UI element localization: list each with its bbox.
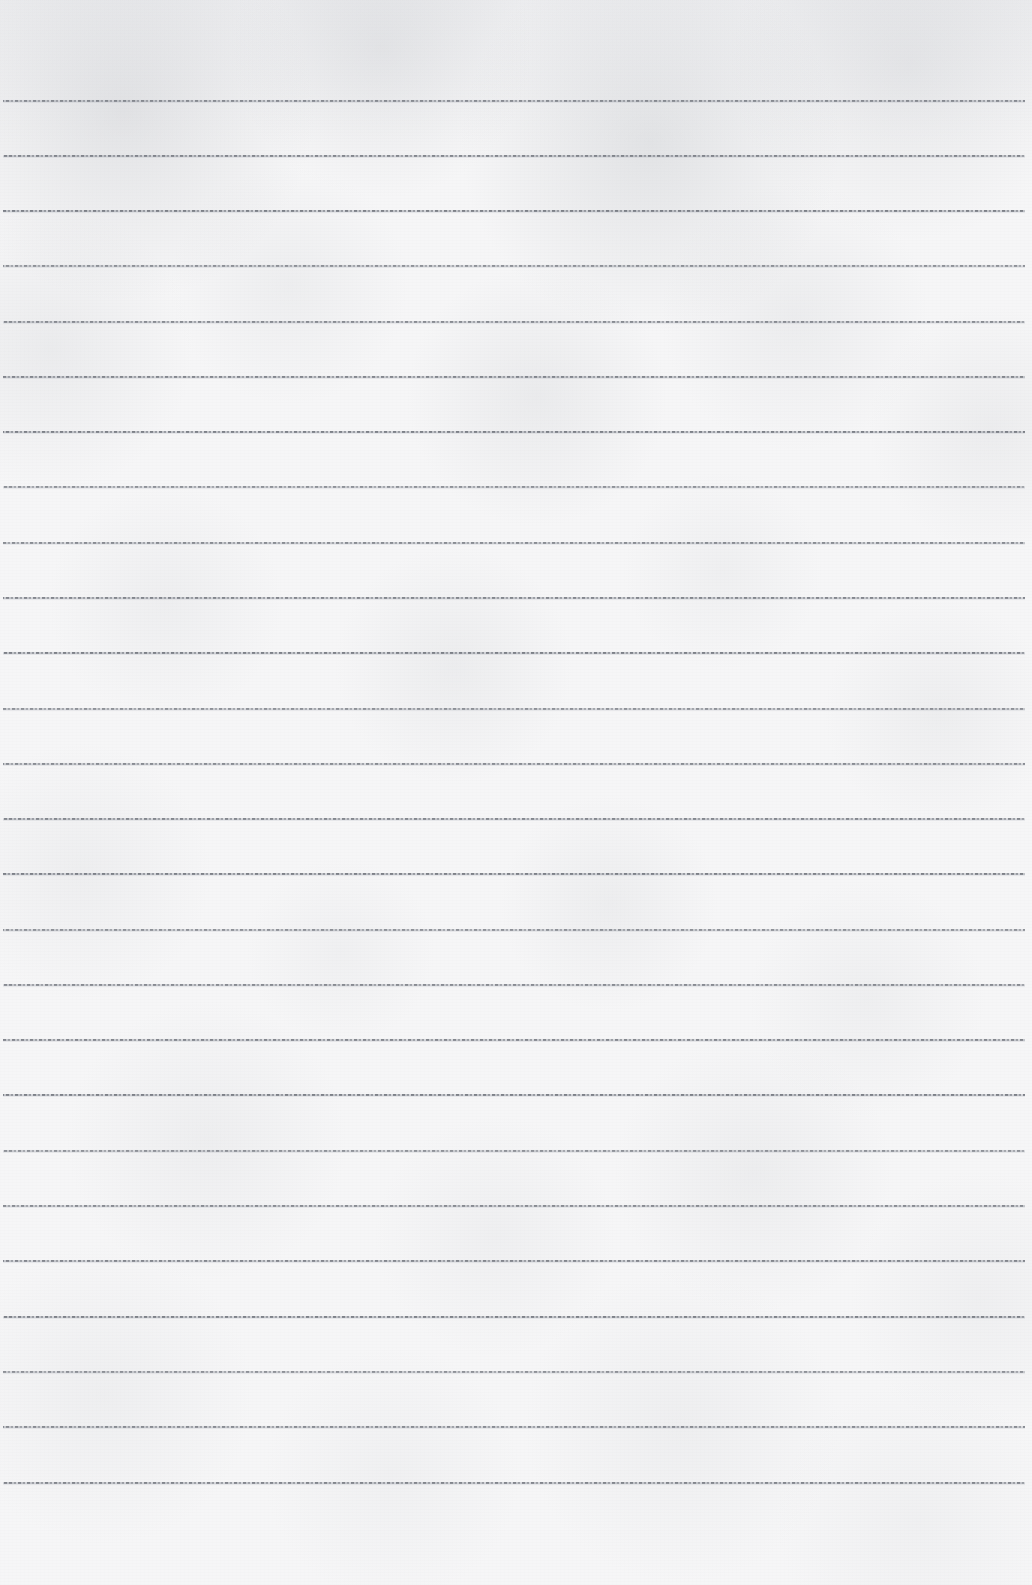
ruled-line (3, 265, 1025, 267)
ruled-line (3, 1316, 1025, 1318)
ruled-line (3, 1426, 1025, 1428)
ruled-line (3, 873, 1025, 875)
ruled-line (3, 1150, 1025, 1152)
ruled-line (3, 763, 1025, 765)
ruled-line (3, 929, 1025, 931)
ruled-lines-layer (0, 0, 1032, 1585)
ruled-line (3, 708, 1025, 710)
ruled-line (3, 431, 1025, 433)
ruled-line (3, 210, 1025, 212)
ruled-line (3, 1371, 1025, 1373)
ruled-line (3, 984, 1025, 986)
ruled-line (3, 1260, 1025, 1262)
ruled-line (3, 155, 1025, 157)
ruled-line (3, 818, 1025, 820)
ruled-line (3, 597, 1025, 599)
ruled-line (3, 100, 1025, 102)
ruled-line (3, 1039, 1025, 1041)
ruled-line (3, 376, 1025, 378)
ruled-line (3, 321, 1025, 323)
ruled-line (3, 486, 1025, 488)
paper-page (0, 0, 1032, 1585)
ruled-line (3, 1482, 1025, 1484)
ruled-line (3, 1205, 1025, 1207)
ruled-line (3, 542, 1025, 544)
ruled-line (3, 652, 1025, 654)
ruled-line (3, 1094, 1025, 1096)
